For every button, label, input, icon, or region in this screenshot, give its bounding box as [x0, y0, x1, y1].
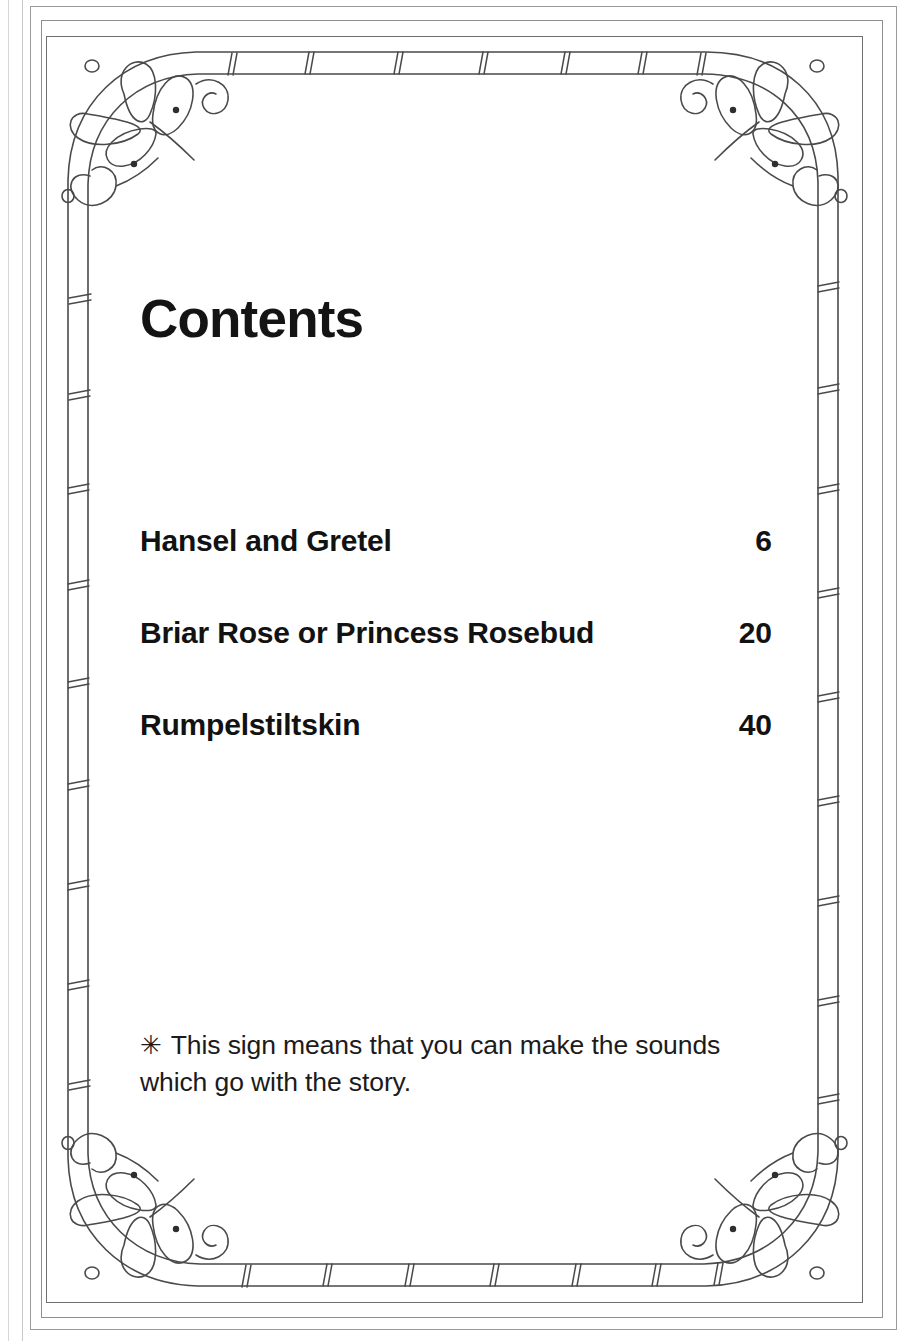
toc-entry-title: Briar Rose or Princess Rosebud: [140, 616, 594, 650]
toc-entry-page-number: 6: [728, 524, 772, 558]
toc-entry-page-number: 20: [728, 616, 772, 650]
toc-entry-title: Hansel and Gretel: [140, 524, 392, 558]
scan-edge-artifact-inner: [22, 0, 23, 1341]
footnote: ✳ This sign means that you can make the …: [140, 1027, 760, 1102]
page-title: Contents: [140, 292, 363, 345]
toc-entry-rumpelstiltskin[interactable]: Rumpelstiltskin 40: [140, 708, 772, 800]
footnote-text: This sign means that you can make the so…: [140, 1030, 720, 1098]
toc-entry-title: Rumpelstiltskin: [140, 708, 360, 742]
toc-entry-page-number: 40: [728, 708, 772, 742]
table-of-contents-list: Hansel and Gretel 6 Briar Rose or Prince…: [140, 524, 772, 800]
toc-entry-briar-rose-or-princess-rosebud[interactable]: Briar Rose or Princess Rosebud 20: [140, 616, 772, 708]
scan-edge-artifact-left: [8, 0, 9, 1341]
toc-entry-hansel-and-gretel[interactable]: Hansel and Gretel 6: [140, 524, 772, 616]
book-contents-page: Contents Hansel and Gretel 6 Briar Rose …: [0, 0, 911, 1341]
asterisk-icon: ✳: [140, 1030, 164, 1060]
